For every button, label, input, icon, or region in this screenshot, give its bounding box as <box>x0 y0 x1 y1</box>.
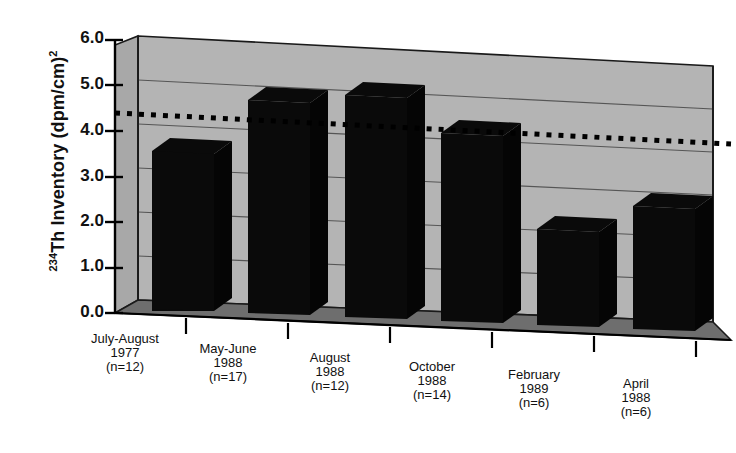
x-label-line-2: 1988 <box>571 391 701 405</box>
bar-july-august-1977[interactable] <box>152 138 232 311</box>
bar-side-face <box>503 123 521 323</box>
bar-front-face <box>633 206 695 331</box>
bar-april-1988[interactable] <box>633 193 713 331</box>
left-side-wall <box>115 36 138 313</box>
x-label-april-1988: April 1988 (n=6) <box>571 377 701 419</box>
bar-side-face <box>599 219 617 327</box>
bar-october-1988[interactable] <box>441 120 521 323</box>
bar-side-face <box>407 85 425 319</box>
bar-front-face-skew <box>152 151 214 311</box>
bar-side-face <box>214 141 232 311</box>
x-label-line-1: April <box>571 377 701 391</box>
bar-front-face <box>345 95 407 319</box>
x-label-line-3: (n=6) <box>571 405 701 419</box>
bar-february-1989[interactable] <box>537 216 617 327</box>
bar-front-face <box>248 100 310 315</box>
chart-figure: 234Th Inventory (dpm/cm)2 6.0 5.0 4.0 3.… <box>0 0 736 453</box>
bar-august-1988[interactable] <box>345 82 425 319</box>
bar-front-face <box>441 133 503 323</box>
bar-front-face <box>537 229 599 327</box>
bar-side-face <box>695 196 713 331</box>
